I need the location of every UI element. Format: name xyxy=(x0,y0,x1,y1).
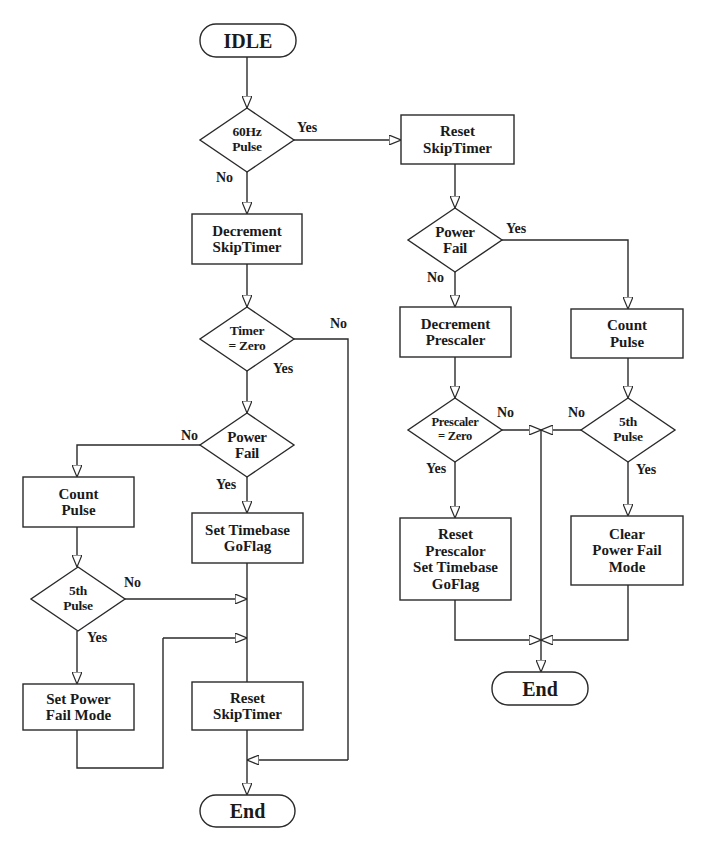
decrement-skiptimer-box: Decrement SkipTimer xyxy=(192,214,302,264)
edge-label-pre-zero-no: No xyxy=(497,405,514,420)
power-fail-left-decision: Power Fail xyxy=(200,413,294,477)
edge-label-pre-zero-yes: Yes xyxy=(426,461,446,476)
edge-label-fifth-right-yes: Yes xyxy=(636,462,656,477)
pulse60-decision: 60Hz Pulse xyxy=(200,108,294,172)
clear-power-fail-mode-box: Clear Power Fail Mode xyxy=(571,516,683,585)
reset-skiptimer-left-box: Reset SkipTimer xyxy=(192,682,303,730)
reset-skiptimer-right-box: Reset SkipTimer xyxy=(401,115,514,164)
flowchart-canvas: IDLE 60Hz Pulse Decrement SkipTimer Time… xyxy=(0,0,715,846)
set-power-fail-mode-box: Set Power Fail Mode xyxy=(23,684,134,730)
edge-label-pulse60-yes: Yes xyxy=(297,120,317,135)
reset-prescalor-box: Reset Prescalor Set Timebase GoFlag xyxy=(400,518,511,600)
end-right-terminal: End xyxy=(492,672,588,705)
decrement-prescaler-box: Decrement Prescaler xyxy=(400,307,511,357)
power-fail-right-decision: Power Fail xyxy=(408,208,502,272)
edge-label-fifth-right-no: No xyxy=(568,405,585,420)
idle-terminal: IDLE xyxy=(200,24,296,57)
edge-label-timer-zero-yes: Yes xyxy=(273,361,293,376)
end-left-terminal: End xyxy=(200,795,295,827)
edge-label-pf-right-no: No xyxy=(427,270,444,285)
edge-label-pf-left-yes: Yes xyxy=(216,477,236,492)
prescaler-zero-decision: Prescaler = Zero xyxy=(408,398,502,462)
count-pulse-right-box: Count Pulse xyxy=(571,309,683,358)
fifth-pulse-right-decision: 5th Pulse xyxy=(581,398,675,462)
edge-label-pulse60-no: No xyxy=(216,170,233,185)
edge-label-timer-zero-no: No xyxy=(330,316,347,331)
edge-label-fifth-left-yes: Yes xyxy=(87,630,107,645)
count-pulse-left-box: Count Pulse xyxy=(23,477,134,527)
fifth-pulse-left-decision: 5th Pulse xyxy=(31,567,125,631)
edge-label-pf-right-yes: Yes xyxy=(506,221,526,236)
edge-label-fifth-left-no: No xyxy=(124,575,141,590)
edge-label-pf-left-no: No xyxy=(181,428,198,443)
set-timebase-goflag-box: Set Timebase GoFlag xyxy=(192,513,303,563)
